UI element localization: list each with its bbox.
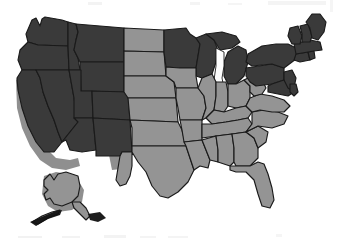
state-nd[interactable] xyxy=(124,28,164,52)
state-nm[interactable] xyxy=(93,118,132,156)
state-ny[interactable] xyxy=(246,44,300,68)
state-tx[interactable] xyxy=(116,146,194,198)
state-ok[interactable] xyxy=(130,120,186,146)
state-ak-panhandle[interactable] xyxy=(72,202,90,220)
region-west xyxy=(17,17,132,156)
state-ks[interactable] xyxy=(128,98,178,122)
state-in[interactable] xyxy=(214,82,228,112)
region-northeast xyxy=(246,14,326,96)
state-wy[interactable] xyxy=(80,62,124,92)
state-wa[interactable] xyxy=(26,17,68,46)
us-choropleth-map-figure xyxy=(0,0,341,245)
state-or[interactable] xyxy=(18,42,69,70)
map-canvas xyxy=(0,0,341,245)
state-co[interactable] xyxy=(92,91,130,120)
state-mi-lower[interactable] xyxy=(224,46,248,84)
scan-artifacts-top xyxy=(88,0,333,12)
state-al[interactable] xyxy=(216,134,234,166)
state-mn[interactable] xyxy=(164,28,200,68)
state-ne[interactable] xyxy=(124,76,176,98)
state-mt[interactable] xyxy=(74,24,124,62)
caption-area xyxy=(0,231,341,245)
state-nc[interactable] xyxy=(246,110,288,132)
state-vt[interactable] xyxy=(288,26,302,44)
state-va[interactable] xyxy=(246,94,290,112)
state-sd[interactable] xyxy=(124,51,166,76)
state-ar[interactable] xyxy=(180,120,202,142)
state-fl[interactable] xyxy=(230,162,274,208)
